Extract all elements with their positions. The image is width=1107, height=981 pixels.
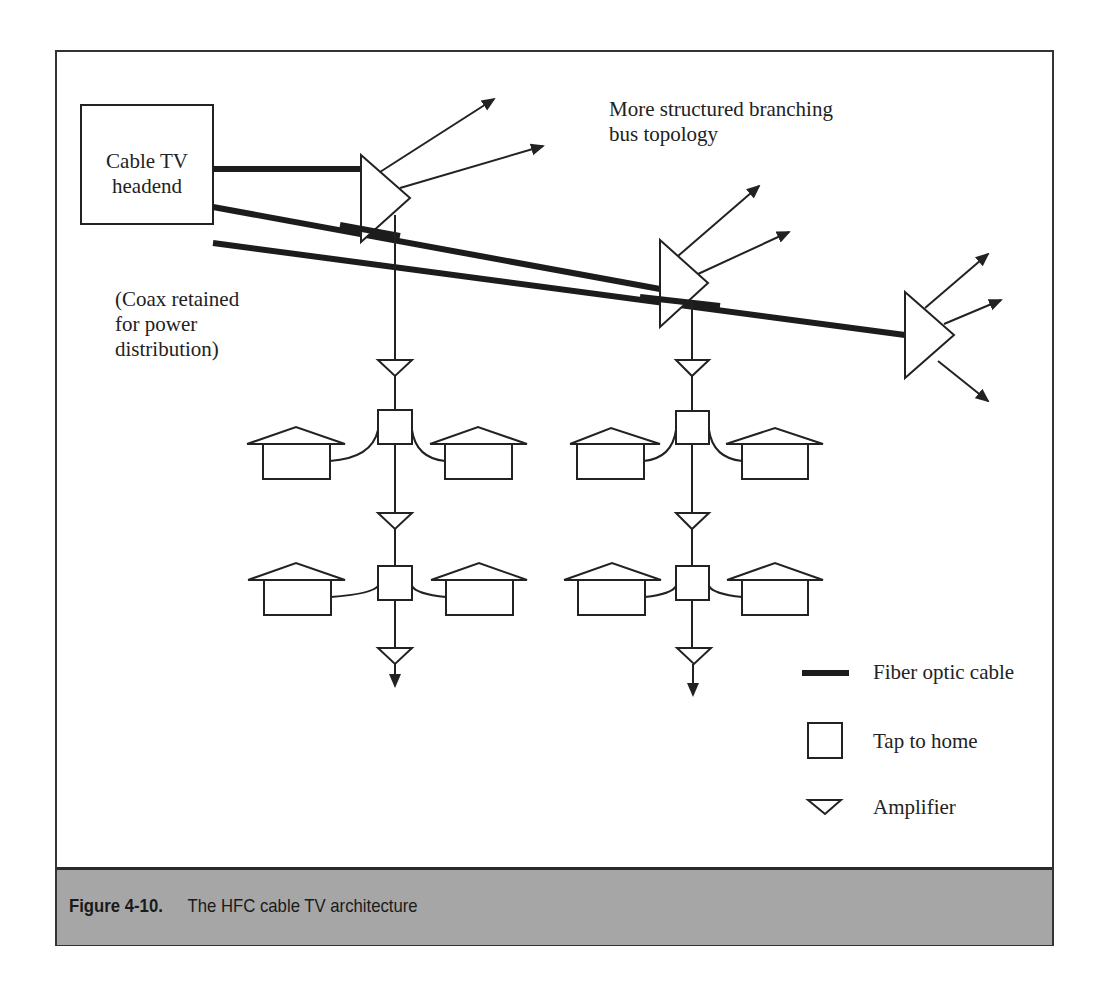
tap — [676, 411, 709, 444]
topology-note: More structured branching bus topology — [609, 97, 833, 147]
house — [248, 563, 378, 615]
line-amplifier — [677, 648, 711, 664]
house — [564, 563, 676, 615]
coax-branch-2 — [564, 302, 823, 695]
coax-branch-1 — [247, 215, 527, 686]
tap-square-icon — [808, 723, 842, 758]
legend-label-fiber: Fiber optic cable — [873, 660, 1014, 685]
line-amplifier — [676, 360, 709, 376]
coax-note: (Coax retained for power distribution) — [115, 287, 239, 362]
line-amplifier — [378, 360, 412, 376]
fiber-cable-3 — [213, 243, 905, 335]
topology-note-line1: More structured branching — [609, 97, 833, 122]
house — [247, 427, 378, 479]
house — [412, 563, 527, 615]
legend-label-tap: Tap to home — [873, 729, 978, 754]
house — [709, 563, 823, 615]
hfc-diagram — [0, 0, 1107, 981]
house — [709, 428, 823, 479]
legend-label-amplifier: Amplifier — [873, 795, 956, 820]
house — [570, 428, 676, 479]
figure-number: Figure 4-10. — [69, 895, 163, 916]
coax-note-line2: for power — [115, 312, 239, 337]
distribution-amplifier-2 — [660, 240, 708, 327]
amplifier-triangle-icon — [808, 800, 841, 814]
line-amplifier — [378, 513, 412, 529]
tap — [378, 410, 412, 444]
house — [412, 427, 527, 479]
fiber-cables — [213, 169, 905, 335]
figure-caption: Figure 4-10.The HFC cable TV architectur… — [69, 895, 418, 917]
headend-label: Cable TV headend — [81, 149, 213, 199]
line-amplifier — [378, 648, 412, 664]
headend-label-line2: headend — [81, 174, 213, 199]
topology-note-line2: bus topology — [609, 122, 833, 147]
headend-label-line1: Cable TV — [81, 149, 213, 174]
tap — [676, 566, 709, 600]
figure-title: The HFC cable TV architecture — [187, 895, 417, 916]
coax-note-line1: (Coax retained — [115, 287, 239, 312]
caption-bar: Figure 4-10.The HFC cable TV architectur… — [57, 867, 1052, 945]
tap — [378, 566, 412, 600]
coax-note-line3: distribution) — [115, 337, 239, 362]
line-amplifier — [676, 513, 709, 529]
fiber-cable-2 — [213, 207, 660, 289]
